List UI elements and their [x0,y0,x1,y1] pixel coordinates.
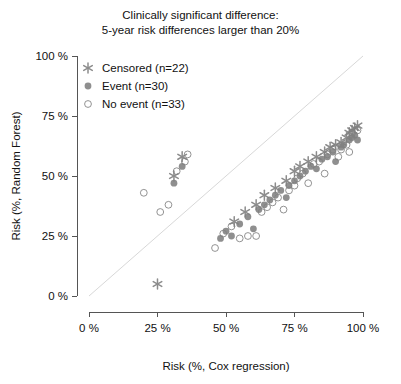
data-point [245,233,252,240]
x-tick-label: 50 % [213,322,239,334]
legend-label: Censored (n=22) [102,62,189,74]
data-point [321,170,328,177]
data-point [335,153,342,160]
x-tick-label: 0 % [79,322,99,334]
y-tick-label: 100 % [35,50,68,62]
data-point [236,235,243,242]
legend-label: No event (n=33) [102,98,185,110]
legend-label: Event (n=30) [102,80,168,92]
data-point [277,187,284,194]
y-tick-label: 75 % [42,110,68,122]
data-point [305,180,312,187]
axes-group [72,56,363,317]
data-points-group [140,121,361,289]
plot-canvas: 0 %25 %50 %75 %100 %0 %25 %50 %75 %100 %… [0,0,401,384]
y-tick-label: 50 % [42,170,68,182]
y-axis-title: Risk (%, Random Forest) [10,111,22,240]
legend-marker-open-circle [85,101,92,108]
data-point [165,201,172,208]
data-point [157,209,164,216]
data-point [283,194,290,201]
x-tick-label: 100 % [347,322,380,334]
data-point [346,149,353,156]
y-tick-label: 25 % [42,230,68,242]
x-tick-label: 25 % [144,322,170,334]
y-tick-label: 0 % [48,290,68,302]
series-asterisk [153,121,362,289]
data-point [171,180,178,187]
x-axis-title: Risk (%, Cox regression) [162,360,289,372]
data-point [253,233,260,240]
data-point [228,233,235,240]
data-point [354,137,361,144]
legend: Censored (n=22)Event (n=30)No event (n=3… [84,62,189,110]
data-point [212,245,219,252]
data-point [280,206,287,213]
data-point [140,189,147,196]
data-point [236,221,243,228]
x-tick-label: 75 % [281,322,307,334]
legend-marker-asterisk [84,63,93,73]
legend-marker-filled-circle [85,83,92,90]
data-point [250,225,257,232]
data-point [153,279,162,289]
scatter-plot-figure: Clinically significant difference: 5-yea… [0,0,401,384]
data-point [245,213,252,220]
